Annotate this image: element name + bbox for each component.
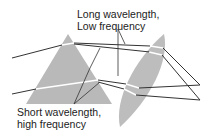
lower-ray-exit-2	[136, 95, 200, 100]
upper-incident-ray	[12, 45, 62, 58]
upper-ray-exit-1	[163, 48, 200, 85]
short-wavelength-line2: high frequency	[17, 118, 101, 130]
short-wavelength-label: Short wavelength, high frequency	[17, 106, 101, 130]
short-wavelength-line1: Short wavelength,	[17, 106, 101, 118]
long-wavelength-line2: Low frequency	[77, 20, 159, 32]
long-wavelength-label: Long wavelength, Low frequency	[77, 8, 159, 32]
leader-long-3	[90, 48, 100, 68]
dispersion-diagram: Long wavelength, Low frequency Short wav…	[0, 0, 209, 140]
long-wavelength-line1: Long wavelength,	[77, 8, 159, 20]
upper-ray-exit-2	[162, 55, 200, 100]
lower-incident-ray	[12, 89, 36, 94]
